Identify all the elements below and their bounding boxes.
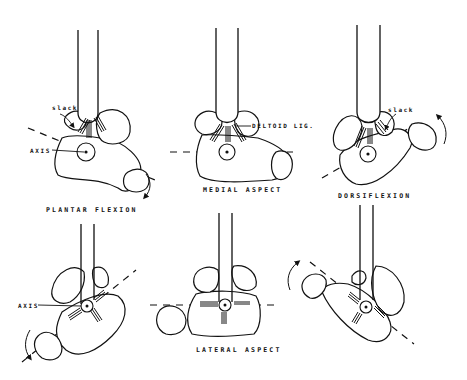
deltoid-ligament-label: DELTOID LIG.: [252, 122, 315, 129]
slack-label: slack: [388, 106, 414, 113]
malleolus-left: [352, 271, 366, 285]
axis-label: AXIS: [18, 302, 39, 309]
tibia-shaft: [357, 25, 380, 123]
caption-dorsiflexion: DORSIFLEXION: [338, 192, 411, 200]
malleolus-right: [93, 267, 109, 288]
malleolus-right: [232, 266, 256, 291]
malleolus-left: [52, 268, 85, 304]
axis-label: AXIS: [30, 147, 51, 154]
panel-plantar-flexion-medial: [28, 30, 160, 197]
panel-plantar-flexion-lateral: [22, 224, 136, 362]
rotation-arrow: [288, 262, 298, 290]
caption-lateral-aspect: LATERAL ASPECT: [196, 346, 282, 354]
tibia-shaft: [78, 30, 98, 123]
calcaneus-tip: [408, 123, 436, 150]
fibula-shaft: [81, 224, 94, 304]
calcaneus-tip: [124, 169, 150, 192]
slack-label: slack: [52, 104, 78, 111]
fibula-shaft: [219, 213, 232, 302]
tibia-shaft: [216, 28, 238, 123]
calcaneus-tip: [157, 306, 186, 335]
axis-point: [84, 150, 87, 153]
axis-point: [366, 152, 369, 155]
fibula-shaft: [360, 205, 373, 300]
rotation-arrow: [26, 330, 31, 358]
axis-point: [225, 150, 228, 153]
axis-point: [224, 304, 227, 307]
calcaneus-tip: [272, 151, 293, 180]
ankle-ligament-diagram: slack AXIS PLANTAR FLEXION DELTOID LIG. …: [0, 0, 467, 380]
malleolus-left: [194, 267, 219, 292]
axis-point: [86, 305, 89, 308]
caption-medial-aspect: MEDIAL ASPECT: [203, 186, 282, 194]
panel-dorsiflexion-lateral: [288, 205, 414, 344]
panel-neutral-lateral: [150, 213, 280, 336]
rotation-arrow: [438, 116, 446, 144]
panel-neutral-medial: [170, 28, 293, 182]
axis-point: [365, 306, 368, 309]
caption-plantar-flexion: PLANTAR FLEXION: [46, 206, 138, 214]
panel-dorsiflexion-medial: [322, 25, 446, 185]
